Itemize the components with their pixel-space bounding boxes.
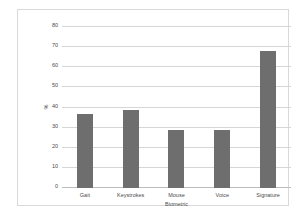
bar[interactable] <box>214 130 230 188</box>
bar-group: Keystrokes <box>108 27 154 188</box>
y-axis-tick-label: 70 <box>52 43 58 49</box>
y-axis-tick-label: 0 <box>55 184 58 190</box>
plot-area: 01020304050607080GaitKeystrokesMouseVoic… <box>62 27 291 188</box>
bar-group: Gait <box>62 27 108 188</box>
y-axis-tick-label: 40 <box>52 104 58 110</box>
x-axis-tick-label: Signature <box>256 193 280 199</box>
y-axis-title: % <box>44 105 50 110</box>
x-axis-tick-label: Gait <box>80 193 90 199</box>
bar[interactable] <box>123 110 139 188</box>
x-axis-title: Biometric <box>62 202 291 208</box>
x-axis-tick-label: Mouse <box>168 193 185 199</box>
bar-group: Mouse <box>154 27 200 188</box>
x-axis-tick-label: Voice <box>216 193 229 199</box>
bar[interactable] <box>168 130 184 188</box>
y-axis-tick-label: 30 <box>52 124 58 130</box>
bar[interactable] <box>77 114 93 188</box>
y-axis-tick-label: 10 <box>52 164 58 170</box>
y-axis-tick-label: 80 <box>52 23 58 29</box>
x-axis-tick-label: Keystrokes <box>117 193 144 199</box>
bar-group: Voice <box>199 27 245 188</box>
y-axis-tick-label: 20 <box>52 144 58 150</box>
bar-group: Signature <box>245 27 291 188</box>
y-axis-tick-label: 60 <box>52 64 58 70</box>
y-axis-tick-label: 50 <box>52 84 58 90</box>
bar[interactable] <box>260 51 276 188</box>
chart-frame: % 01020304050607080GaitKeystrokesMouseVo… <box>17 9 289 206</box>
